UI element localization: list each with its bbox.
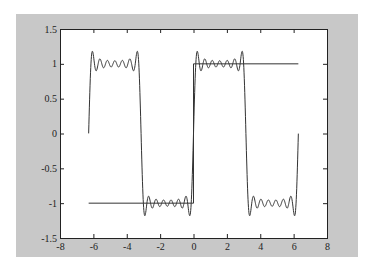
y-tick-label: 1 (52, 58, 57, 69)
x-tick-label: -4 (123, 241, 131, 252)
y-tick-label: 1.5 (45, 24, 58, 35)
x-tick-label: 0 (192, 241, 197, 252)
x-tick-label: -2 (156, 241, 164, 252)
y-tick-label: 0.5 (45, 93, 58, 104)
y-tick-label: -0.5 (41, 163, 57, 174)
x-tick-label: -6 (90, 241, 98, 252)
y-tick-label: 0 (52, 128, 57, 139)
figure-background: -8-6-4-202468 -1.5-1-0.500.511.5 (16, 14, 358, 257)
y-tick-label: -1 (49, 198, 57, 209)
y-tick-label: -1.5 (41, 233, 57, 244)
x-tick-label: -8 (56, 241, 64, 252)
x-tick-label: 6 (292, 241, 297, 252)
x-tick-label: 4 (258, 241, 263, 252)
chart: -8-6-4-202468 -1.5-1-0.500.511.5 (16, 14, 358, 257)
x-tick-label: 8 (325, 241, 330, 252)
x-tick-label: 2 (225, 241, 230, 252)
